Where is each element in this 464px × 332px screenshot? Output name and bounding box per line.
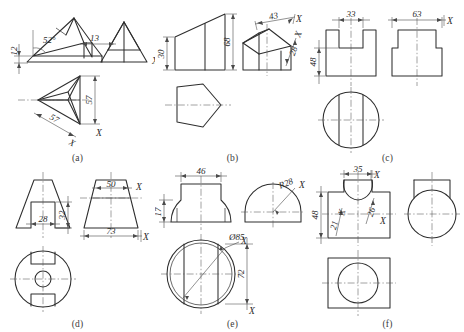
panel-b-top-view [165,84,231,127]
dim-label: 68 [222,37,232,47]
panel-f-drawing: 35 48 26 21 [310,166,464,332]
x-marker: X [373,170,381,180]
panel-c-drawing: 33 63 48 X [310,0,464,166]
dim-label: 12 [9,46,19,56]
panel-c-bottom-view [318,87,384,153]
panel-a-dim-57-vertical: 57 [81,76,100,124]
exercise-panel-f: 35 48 26 21 [310,166,464,332]
panel-b-drawing: 30 68 43 [155,0,310,166]
panel-e-top-view [161,234,243,314]
dim-label: 73 [107,226,117,236]
panel-d-drawing: 28 32 50 [0,166,155,332]
dim-label: 48 [310,57,318,67]
panel-caption-c: (c) [310,153,464,163]
panel-caption-e: (e) [155,319,310,329]
dim-label: 28 [287,45,300,57]
panel-a-dim-57-oblique: 57 [34,112,76,137]
dim-label: 52° [43,35,56,45]
panel-a-dim-13: 13 [80,33,116,46]
panel-a-drawing: 12 52° 13 57 [0,0,155,166]
x-marker: X [95,128,103,138]
dim-label: 35 [353,166,364,174]
exercise-panel-a: 12 52° 13 57 [0,0,155,166]
dim-label: 30 [156,49,166,60]
panel-d-bottom-view [10,246,76,312]
panel-b-front-view [175,14,225,70]
exercise-panel-d: 28 32 50 [0,166,155,332]
dim-label: 28 [39,214,49,224]
dim-label: 50 [107,179,117,189]
dim-label: 32 [57,210,67,221]
panel-e-side-view [241,182,305,228]
panel-a-dim-12: 12 [9,44,32,74]
panel-e-front-view [171,176,231,230]
x-marker: X [446,16,454,26]
panel-e-drawing: 46 17 R28 Ø85 [155,166,310,332]
dim-label: 26 [365,206,377,218]
panel-caption-d: (d) [0,319,155,329]
x-marker: X [248,306,256,316]
dim-label: 17 [155,207,163,217]
panel-a-side-view [101,22,147,62]
panel-c-side-view [392,18,442,86]
dim-label: 43 [268,10,279,21]
exercise-panel-c: 33 63 48 X (c) [310,0,464,166]
x-marker: X [240,236,248,246]
panel-b-auxiliary-view [243,24,291,76]
panel-b-dim-28: 28 [285,38,300,66]
panel-c-front-view [326,18,376,86]
dim-label: 13 [90,33,100,43]
dim-label: 21 [328,220,340,231]
x-marker: X [142,232,150,242]
panel-b-dim-30: 30 [156,37,174,70]
panel-f-front-view [322,172,396,246]
panel-e-dim-R28: R28 [273,176,295,215]
dim-label: 72 [236,269,246,279]
panel-f-top-view [322,250,396,316]
panel-c-dim-33: 33 [332,9,370,28]
x-marker: X [295,14,303,24]
x-marker: X [135,182,143,192]
panel-caption-a: (a) [0,153,155,163]
drawing-sheet: 12 52° 13 57 [0,0,464,332]
x-marker: X [298,180,306,190]
panel-b-dim-43: 43 [255,10,295,30]
dim-label: R28 [276,176,295,191]
panel-c-dim-48: 48 [310,40,338,84]
x-marker: X [292,29,304,40]
dim-label: 63 [413,9,423,19]
panel-b-dim-68: 68 [222,14,237,70]
panel-f-dim-48: 48 [310,186,327,244]
panel-f-dim-26: 26 [365,198,377,224]
dim-label: 48 [310,210,320,220]
dim-label: 57 [48,112,61,125]
panel-f-side-view [404,172,460,246]
panel-c-dim-63: 63 [388,9,446,28]
exercise-panel-e: 46 17 R28 Ø85 [155,166,310,332]
x-marker: X [379,216,387,226]
dim-label: 57 [84,95,94,105]
panel-caption-f: (f) [310,319,464,329]
panel-caption-b: (b) [155,153,310,163]
x-marker: X [66,137,78,150]
dim-label: 33 [346,9,357,19]
dim-label: 46 [197,166,207,176]
exercise-panel-b: 30 68 43 [155,0,310,166]
panel-e-dim-17: 17 [155,194,173,228]
